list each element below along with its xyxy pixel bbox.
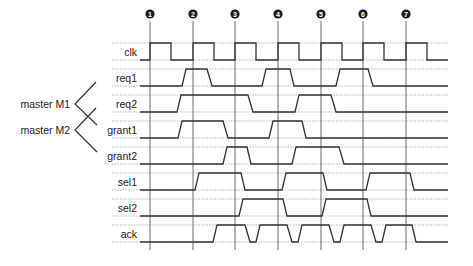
waveform-grant2 (140, 147, 448, 164)
marker-number: 3 (233, 11, 237, 18)
signal-label-grant2: grant2 (107, 150, 137, 162)
waveform-grant1 (140, 121, 448, 138)
signal-label-req2: req2 (116, 98, 137, 110)
waveform-ack (140, 225, 448, 242)
marker-number: 1 (148, 11, 152, 18)
waveform-sel1 (140, 173, 448, 190)
marker-number: 6 (361, 11, 365, 18)
markers: 1234567 (145, 9, 410, 18)
group-brackets: master M1 master M2 (20, 82, 97, 152)
guide-lines (112, 43, 448, 242)
timing-diagram: 1234567 clkreq1req2grant1grant2sel1sel2a… (0, 0, 473, 266)
marker-7: 7 (401, 9, 410, 18)
marker-number: 4 (276, 11, 280, 18)
marker-6: 6 (358, 9, 367, 18)
waveform-req1 (140, 69, 448, 86)
signal-label-grant1: grant1 (107, 124, 137, 136)
signal-label-clk: clk (124, 46, 138, 58)
marker-5: 5 (316, 9, 325, 18)
signal-label-sel2: sel2 (118, 202, 137, 214)
group-label-master-m1: master M1 (20, 98, 70, 110)
marker-number: 5 (319, 11, 323, 18)
signal-labels: clkreq1req2grant1grant2sel1sel2ack (107, 46, 138, 240)
marker-4: 4 (273, 9, 282, 18)
waveform-req2 (140, 95, 448, 112)
marker-1: 1 (145, 9, 154, 18)
signal-label-req1: req1 (116, 72, 137, 84)
group-label-master-m2: master M2 (20, 124, 70, 136)
marker-number: 7 (404, 11, 408, 18)
waveform-sel2 (140, 199, 448, 216)
waveform-clk (140, 43, 448, 60)
waveforms (140, 43, 448, 242)
signal-label-ack: ack (121, 228, 138, 240)
marker-2: 2 (188, 9, 197, 18)
marker-number: 2 (191, 11, 195, 18)
marker-3: 3 (230, 9, 239, 18)
signal-label-sel1: sel1 (118, 176, 137, 188)
